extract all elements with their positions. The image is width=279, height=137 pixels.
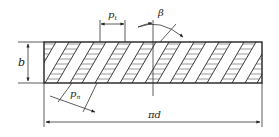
face-width-label: b xyxy=(18,56,25,69)
svg-text:pt: pt xyxy=(108,9,117,21)
transverse-pitch-subscript: t xyxy=(114,14,117,21)
transverse-pitch-dimension: pt xyxy=(100,9,125,42)
helix-angle-label: β xyxy=(157,7,164,18)
gear-development-diagram: b pt β pn πd xyxy=(0,0,279,137)
teeth-stripes xyxy=(20,42,279,83)
face-width-dimension: b xyxy=(18,42,44,83)
circumference-label: πd xyxy=(147,109,161,120)
svg-text:pn: pn xyxy=(70,88,80,100)
normal-pitch-dimension: pn xyxy=(50,83,97,112)
normal-pitch-subscript: n xyxy=(76,93,80,100)
